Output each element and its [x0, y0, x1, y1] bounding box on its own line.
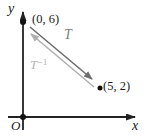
transformation-diagram: y x O (0, 6) (5, 2) T T−1 [0, 0, 152, 140]
t-arrow-label: T [64, 28, 72, 42]
diagram-canvas [0, 0, 152, 140]
origin-dot [20, 114, 26, 120]
x-axis-label: x [132, 119, 138, 133]
point-0-6-label: (0, 6) [32, 13, 59, 26]
point-5-2-dot [98, 86, 103, 91]
t-inverse-exponent: −1 [37, 57, 48, 67]
t-arrow [30, 27, 92, 79]
origin-label: O [11, 119, 20, 132]
t-inverse-arrow-label: T−1 [30, 58, 48, 71]
y-axis-label: y [8, 2, 14, 16]
point-0-6-dot [20, 19, 26, 25]
point-5-2-label: (5, 2) [103, 80, 130, 93]
